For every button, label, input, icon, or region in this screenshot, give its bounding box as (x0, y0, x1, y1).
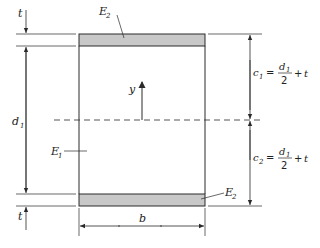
top-flange (79, 34, 205, 46)
b-label: b (139, 212, 146, 225)
bottom-flange (79, 194, 205, 206)
d1-label: d 1 (12, 115, 24, 130)
svg-text:+: + (294, 153, 302, 164)
e1-label: E 1 (50, 145, 62, 160)
svg-text:1: 1 (58, 152, 62, 160)
e2-top-label: E 2 (98, 5, 111, 20)
c1-equation: c 1 = d 1 2 + t (253, 61, 309, 86)
svg-text:2: 2 (231, 193, 237, 201)
svg-text:t: t (304, 68, 309, 79)
c2-equation: c 2 = d 1 2 + t (253, 146, 309, 171)
bottom-t-label: t (18, 210, 23, 223)
svg-text:2: 2 (258, 158, 264, 166)
svg-text:2: 2 (105, 12, 111, 20)
svg-text:=: = (266, 152, 274, 163)
svg-text:d: d (279, 146, 285, 157)
svg-text:+: + (294, 68, 302, 79)
svg-text:1: 1 (20, 122, 24, 130)
svg-text:t: t (304, 153, 309, 164)
e2-bottom-label: E 2 (224, 186, 237, 201)
svg-text:1: 1 (259, 73, 263, 81)
svg-text:d: d (279, 61, 285, 72)
top-t-label: t (18, 7, 23, 20)
svg-text:d: d (12, 115, 19, 128)
svg-text:2: 2 (281, 160, 287, 171)
svg-text:=: = (266, 67, 274, 78)
svg-text:2: 2 (281, 75, 287, 86)
cross-section-diagram: t t d 1 E 2 y E 1 E 2 b c 1 = d 1 2 + t … (0, 0, 320, 248)
y-axis-label: y (128, 83, 136, 96)
